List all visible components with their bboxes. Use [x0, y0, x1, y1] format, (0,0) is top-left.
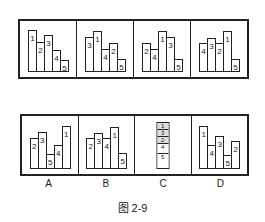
stack-cell-4: 4	[157, 144, 168, 154]
bar-5: 5	[117, 59, 126, 72]
bar-number: 1	[159, 35, 166, 44]
bar-number: 5	[119, 157, 126, 166]
bar-number: 4	[103, 142, 110, 151]
bar-number: 3	[167, 41, 174, 50]
bar-number: 2	[110, 47, 117, 56]
bar-number: 4	[151, 53, 158, 62]
bar-number: 5	[232, 63, 239, 72]
bar-number: 4	[208, 149, 215, 158]
bar-2: 2	[231, 141, 240, 169]
bar-number: 2	[87, 142, 94, 151]
bar-number: 4	[55, 149, 62, 158]
bar-number: 2	[232, 145, 239, 154]
bar-number: 3	[216, 140, 223, 149]
question-panel-4: 43215	[191, 21, 247, 77]
question-panel-3: 24135	[134, 21, 191, 77]
bar-number: 4	[53, 54, 60, 63]
option-panel-d[interactable]: 14352	[192, 116, 248, 174]
stack-cell-1: 1	[157, 123, 168, 130]
stack-cell-3: 3	[157, 130, 168, 137]
bar-number: 2	[143, 47, 150, 56]
bar-1: 1	[62, 126, 71, 169]
bar-5: 5	[118, 153, 127, 169]
bar-number: 5	[175, 63, 182, 72]
question-panel-1: 12345	[20, 21, 77, 77]
option-label-b: B	[77, 178, 134, 189]
bar-number: 5	[224, 159, 231, 168]
option-label-c: C	[135, 178, 192, 189]
bar-number: 3	[208, 42, 215, 51]
bar-number: 2	[37, 46, 44, 55]
option-label-d: D	[192, 178, 249, 189]
bar-number: 5	[118, 63, 125, 72]
bar-number: 3	[86, 41, 93, 50]
stack-cell-5: 5	[157, 154, 168, 168]
bar-number: 4	[102, 53, 109, 62]
bar-number: 1	[29, 34, 36, 43]
bar-5: 5	[174, 59, 183, 72]
bar-number: 2	[216, 47, 223, 56]
bar-number: 5	[47, 158, 54, 167]
bar-number: 1	[63, 130, 70, 139]
bar-5: 5	[60, 60, 69, 72]
option-label-a: A	[20, 178, 77, 189]
question-panel-2: 31425	[77, 21, 134, 77]
question-row: 12345 31425 24135 43215	[18, 19, 249, 79]
bar-number: 1	[200, 130, 207, 139]
bar-5: 5	[231, 59, 240, 72]
option-panel-a[interactable]: 23541	[22, 116, 79, 174]
option-panel-b[interactable]: 23415	[79, 116, 136, 174]
options-row: 23541 23415 1 3 2 4 5 14352	[20, 114, 249, 176]
stack-cell-2: 2	[157, 137, 168, 144]
bar-number: 1	[94, 35, 101, 44]
option-labels: A B C D	[20, 178, 249, 189]
bar-number: 5	[61, 64, 68, 73]
bar-number: 4	[200, 47, 207, 56]
bar-number: 3	[45, 39, 52, 48]
bar-number: 3	[39, 136, 46, 145]
bar-number: 1	[111, 131, 118, 140]
option-panel-c[interactable]: 1 3 2 4 5	[135, 116, 192, 174]
stacked-column: 1 3 2 4 5	[156, 122, 169, 169]
bar-number: 3	[95, 137, 102, 146]
bar-number: 2	[31, 142, 38, 151]
figure-caption: 图 2-9	[0, 199, 265, 215]
bar-number: 1	[224, 35, 231, 44]
